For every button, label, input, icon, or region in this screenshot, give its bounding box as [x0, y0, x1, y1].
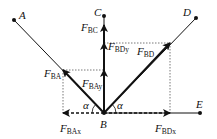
angle-arc-right: [112, 104, 116, 113]
angle-arc-left: [92, 104, 96, 113]
point-B: [102, 111, 106, 115]
label-angle-right: α: [117, 99, 123, 111]
point-A: [12, 18, 16, 22]
point-C: [102, 14, 106, 18]
label-F_BDy: FBDy: [107, 40, 129, 54]
label-A: A: [18, 9, 26, 21]
label-F_BA: FBA: [43, 67, 62, 81]
label-F_BDx: FBDx: [154, 122, 176, 136]
label-D: D: [182, 6, 191, 18]
label-F_BAy: FBAy: [81, 77, 102, 91]
force-diagram: A C D E B FBC FBDy FBD FBA FBAy FBAx FBD…: [0, 0, 217, 139]
label-F_BD: FBD: [136, 45, 155, 59]
label-F_BAx: FBAx: [59, 122, 81, 136]
label-angle-left: α: [83, 99, 89, 111]
label-B: B: [100, 118, 107, 130]
label-C: C: [94, 6, 102, 18]
point-D: [194, 16, 198, 20]
point-E: [198, 111, 202, 115]
label-E: E: [195, 98, 203, 110]
label-F_BC: FBC: [80, 21, 98, 35]
